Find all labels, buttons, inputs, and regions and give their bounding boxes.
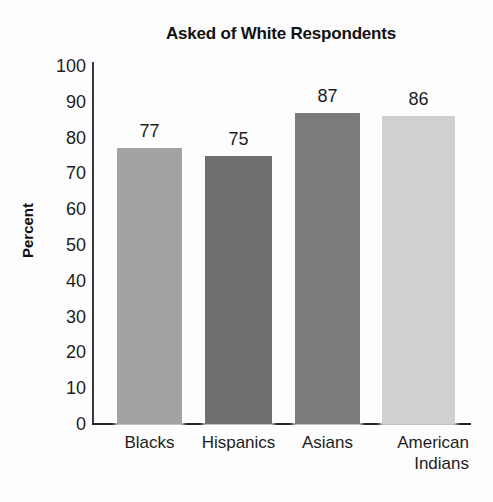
- plot-area: 77758786: [92, 66, 470, 424]
- bar[interactable]: [205, 156, 272, 425]
- chart-page: Asked of White Respondents Percent 10090…: [0, 0, 493, 502]
- bar-group: 87: [295, 66, 360, 424]
- bar-group: 75: [205, 66, 272, 424]
- bar[interactable]: [382, 116, 455, 424]
- y-tick-label: 0: [28, 415, 86, 433]
- bar-value-label: 75: [228, 130, 248, 148]
- bar[interactable]: [295, 113, 360, 424]
- y-tick-label: 80: [28, 129, 86, 147]
- y-tick-label: 70: [28, 164, 86, 182]
- x-axis-category-label: Hispanics: [191, 432, 286, 453]
- bar-value-label: 77: [139, 122, 159, 140]
- x-axis-category-label: Asians: [281, 432, 374, 453]
- x-axis-category-label: Blacks: [103, 432, 196, 453]
- bar-group: 77: [117, 66, 182, 424]
- bar-value-label: 87: [317, 87, 337, 105]
- x-axis-category-label: American Indians: [368, 432, 469, 475]
- y-tick-label: 100: [28, 57, 86, 75]
- y-tick-label: 40: [28, 272, 86, 290]
- bar[interactable]: [117, 148, 182, 424]
- y-tick-label: 30: [28, 308, 86, 326]
- bar-group: 86: [382, 66, 455, 424]
- bar-value-label: 86: [408, 90, 428, 108]
- y-tick-label: 90: [28, 93, 86, 111]
- y-axis-tick-labels: 1009080706050403020100: [26, 66, 86, 424]
- y-tick-label: 10: [28, 379, 86, 397]
- y-tick-label: 60: [28, 200, 86, 218]
- y-tick-label: 20: [28, 343, 86, 361]
- y-tick-label: 50: [28, 236, 86, 254]
- chart-title: Asked of White Respondents: [92, 24, 470, 44]
